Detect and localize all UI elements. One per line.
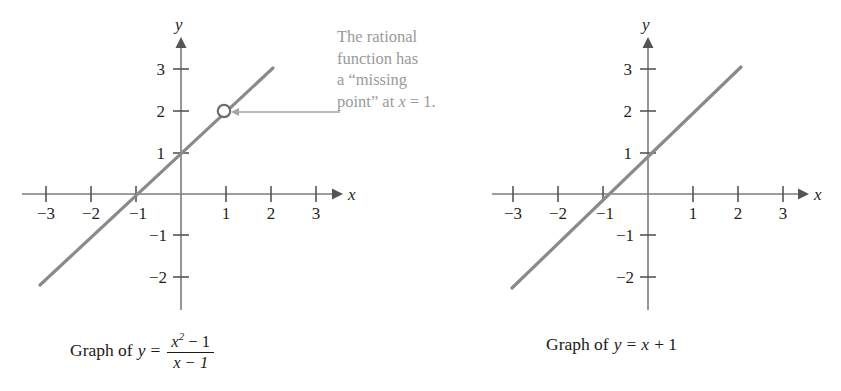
annotation-variable-x: x <box>398 92 405 111</box>
left-ytick-label--1: −1 <box>149 226 167 245</box>
right-caption-rest: + 1 <box>654 334 677 355</box>
right-xtick-label-2: 2 <box>734 204 743 223</box>
annotation-line-4-prefix: point” at <box>337 92 398 111</box>
open-circle-hole-marker <box>218 105 230 117</box>
annotation-line-3: a “missing <box>337 69 492 91</box>
annotation-line-4-suffix: = 1. <box>406 92 436 111</box>
left-xtick-label-2: 2 <box>267 204 276 223</box>
left-caption-equals: = <box>150 340 160 361</box>
right-y-axis-arrowhead <box>643 37 654 48</box>
left-xtick-label-1: 1 <box>222 204 231 223</box>
right-xtick-label-1: 1 <box>689 204 698 223</box>
right-graph-caption: Graph of y = x + 1 <box>546 334 677 355</box>
left-xtick-label--3: −3 <box>37 204 55 223</box>
left-ytick-label--2: −2 <box>149 268 167 287</box>
left-xtick-label--2: −2 <box>82 204 100 223</box>
left-xtick-label-3: 3 <box>312 204 321 223</box>
left-y-axis-arrowhead <box>176 37 187 48</box>
numerator-rest: − 1 <box>184 332 210 351</box>
right-caption-x-var: x <box>641 334 649 355</box>
fraction-denominator: x − 1 <box>169 353 212 372</box>
left-caption-fraction: x2 − 1 x − 1 <box>167 327 214 372</box>
left-xtick-label--1: −1 <box>129 204 147 223</box>
annotation-line-2: function has <box>337 48 492 70</box>
fraction-numerator: x2 − 1 <box>167 327 214 352</box>
left-function-line <box>40 68 273 285</box>
annotation-arrowhead-icon <box>231 108 239 116</box>
right-xtick-label--3: −3 <box>504 204 522 223</box>
right-graph-group: −3 −2 −1 1 2 3 3 2 1 −1 −2 x y <box>492 15 822 310</box>
annotation-text-block: The rational function has a “missing poi… <box>337 26 492 112</box>
right-caption-equals: = <box>626 334 636 355</box>
right-function-line <box>512 67 741 288</box>
figure-root: −3 −2 −1 1 2 3 3 2 1 −1 −2 x y <box>0 0 841 391</box>
annotation-line-1: The rational <box>337 26 492 48</box>
right-ytick-label-3: 3 <box>624 60 633 79</box>
right-caption-y-var: y <box>614 334 622 355</box>
right-x-axis-label: x <box>813 185 822 204</box>
right-y-axis-label: y <box>640 15 650 34</box>
left-graph-group: −3 −2 −1 1 2 3 3 2 1 −1 −2 x y <box>22 15 356 310</box>
right-xtick-label--2: −2 <box>549 204 567 223</box>
left-ytick-label-1: 1 <box>157 144 166 163</box>
left-caption-prefix: Graph of <box>70 340 133 361</box>
annotation-line-4: point” at x = 1. <box>337 91 492 113</box>
left-caption-y-var: y <box>138 340 146 361</box>
right-xtick-label-3: 3 <box>779 204 788 223</box>
right-ytick-label-1: 1 <box>624 144 633 163</box>
left-y-axis-label: y <box>173 15 183 34</box>
right-caption-prefix: Graph of <box>546 334 609 355</box>
left-ytick-label-3: 3 <box>157 60 166 79</box>
left-graph-caption: Graph of y = x2 − 1 x − 1 <box>70 328 216 373</box>
right-x-axis-arrowhead <box>798 189 809 200</box>
left-x-axis-label: x <box>347 185 356 204</box>
right-ytick-label--1: −1 <box>616 226 634 245</box>
right-xtick-label--1: −1 <box>596 204 614 223</box>
left-x-axis-arrowhead <box>332 189 343 200</box>
right-ytick-label--2: −2 <box>616 268 634 287</box>
right-ytick-label-2: 2 <box>624 102 633 121</box>
left-ytick-label-2: 2 <box>157 102 166 121</box>
numerator-x-var: x <box>171 332 178 351</box>
